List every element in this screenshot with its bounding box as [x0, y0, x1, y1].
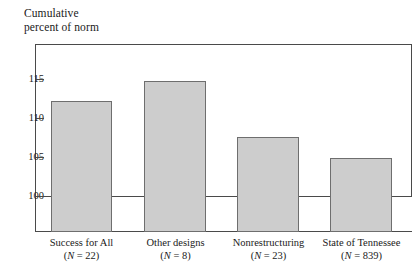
category-n-3: (N = 839): [302, 249, 420, 262]
bar-success-for-all: [51, 101, 112, 232]
n-joiner-3: =: [352, 250, 363, 261]
category-name-3: State of Tennessee: [302, 236, 420, 249]
paren-close-3: ): [378, 250, 382, 261]
bar-other-designs: [144, 81, 206, 232]
n-value-3: 839: [363, 250, 379, 261]
n-value-0: 22: [85, 250, 96, 261]
n-joiner-0: =: [74, 250, 85, 261]
n-value-2: 23: [272, 250, 283, 261]
bar-chart: Cumulative percent of norm 115 110 105 1…: [0, 0, 420, 280]
bar-state-of-tennessee: [330, 158, 392, 232]
paren-close-1: ): [187, 250, 191, 261]
paren-close-0: ): [96, 250, 100, 261]
n-joiner-1: =: [171, 250, 182, 261]
bar-nonrestructuring: [237, 137, 299, 232]
category-label-state-of-tennessee: State of Tennessee (N = 839): [302, 236, 420, 262]
n-joiner-2: =: [261, 250, 272, 261]
paren-close-2: ): [283, 250, 287, 261]
n-symbol-3: N: [345, 250, 352, 261]
n-symbol-1: N: [164, 250, 171, 261]
